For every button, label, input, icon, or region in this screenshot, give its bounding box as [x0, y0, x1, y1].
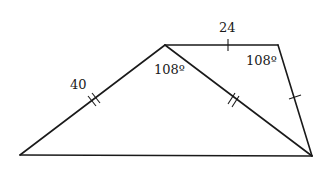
edge-ab [20, 45, 165, 155]
geometry-diagram: 40 24 108º 108º [0, 0, 328, 174]
edge-ad-base [20, 155, 312, 156]
figure-svg [0, 0, 328, 174]
side-label-ab: 40 [70, 78, 87, 91]
side-label-bc: 24 [219, 21, 236, 34]
edge-bd-diagonal [165, 45, 312, 156]
angle-label-b: 108º [154, 63, 185, 76]
angle-label-c: 108º [246, 54, 277, 67]
edge-cd [278, 45, 312, 156]
